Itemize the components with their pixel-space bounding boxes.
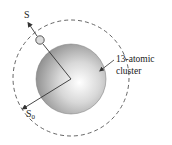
label-cluster-line1: 13-atomic <box>116 54 155 64</box>
small-atom <box>36 36 44 44</box>
label-s: S <box>24 9 30 20</box>
label-s0: S0 <box>26 108 36 121</box>
label-cluster-line2: cluster <box>116 66 142 76</box>
cluster-diagram: S S0 13-atomic cluster <box>0 0 172 145</box>
